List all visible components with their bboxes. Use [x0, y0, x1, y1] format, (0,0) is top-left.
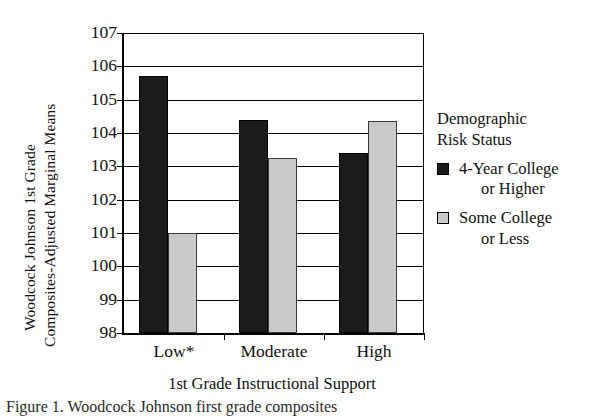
y-axis-tick-label: 106 [91, 57, 117, 75]
y-axis-tick-label: 105 [91, 91, 117, 109]
y-axis-title: Woodcock Johnson 1st Grade Composites-Ad… [0, 0, 56, 350]
legend-title: Demographic Risk Status [437, 108, 589, 150]
bar-group-container [124, 33, 424, 333]
figure-caption: Figure 1. Woodcock Johnson first grade c… [0, 398, 589, 416]
y-axis-tick-mark [117, 200, 124, 201]
legend-item-4-year-college-or-higher: 4-Year College or Higher [437, 159, 589, 199]
x-axis-title: 1st Grade Instructional Support [122, 376, 422, 393]
y-axis-tick-label: 101 [91, 224, 117, 242]
y-axis-title-line-1: Woodcock Johnson 1st Grade [22, 144, 38, 331]
bar-low-series1 [139, 76, 168, 333]
x-axis-tick-mark [324, 333, 325, 340]
y-axis-tick-mark [117, 300, 124, 301]
y-axis-tick-mark [117, 133, 124, 134]
y-axis-tick-mark [117, 66, 124, 67]
bar-high-series1 [339, 153, 368, 333]
legend-item-some-college-or-less: Some College or Less [437, 208, 589, 248]
plot-area: 1071061051041031021011009998 Low*Moderat… [122, 33, 424, 335]
x-axis-tick-label-low: Low* [154, 343, 195, 361]
legend-title-line-2: Risk Status [437, 129, 589, 150]
bar-low-series2 [168, 233, 197, 333]
legend-item-label-line-2: or Less [459, 229, 589, 249]
y-axis-tick-label: 100 [91, 257, 117, 275]
x-axis-tick-label-moderate: Moderate [240, 343, 307, 361]
y-axis-tick-mark [117, 33, 124, 34]
legend-title-line-1: Demographic [437, 109, 527, 128]
legend-item-label-line-1: 4-Year College [459, 159, 589, 179]
y-axis-tick-label: 99 [100, 291, 118, 309]
y-axis-title-line-2: Composites-Adjusted Marginal Means [42, 104, 58, 347]
y-axis-tick-mark [117, 266, 124, 267]
legend-item-label-line-2: or Higher [459, 179, 589, 199]
legend-item-label-line-1: Some College [459, 208, 589, 228]
x-axis-tick-label-high: High [357, 343, 392, 361]
legend-swatch-light-icon [437, 212, 449, 224]
y-axis-tick-label: 98 [100, 324, 118, 342]
y-axis-tick-mark [117, 333, 124, 334]
legend-swatch-dark-icon [437, 163, 449, 175]
x-axis-tick-mark [224, 333, 225, 340]
y-axis-tick-label: 104 [91, 124, 117, 141]
bar-high-series2 [368, 121, 397, 333]
legend: Demographic Risk Status 4-Year College o… [437, 108, 589, 249]
y-axis-tick-label: 102 [91, 191, 117, 209]
y-axis-tick-label: 107 [91, 24, 117, 42]
x-axis-tick-mark [424, 333, 425, 340]
y-axis-tick-label: 103 [91, 157, 117, 175]
bar-moderate-series2 [268, 158, 297, 333]
y-axis-tick-mark [117, 233, 124, 234]
y-axis-tick-mark [117, 166, 124, 167]
y-axis-tick-mark [117, 100, 124, 101]
bar-moderate-series1 [239, 120, 268, 333]
